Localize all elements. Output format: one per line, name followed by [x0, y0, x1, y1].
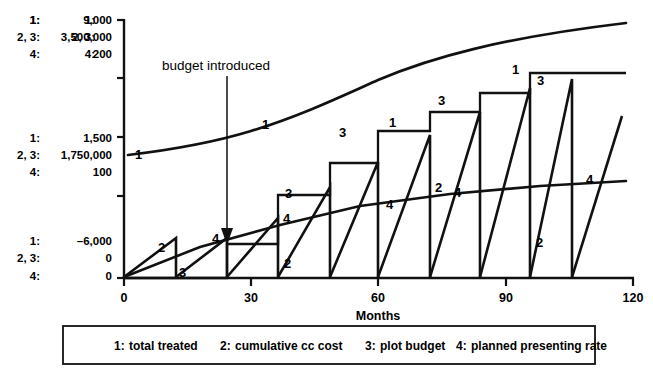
y-bot-val-1: 0 — [106, 252, 112, 264]
y-scale-group-middle: 1: 2, 3: 4: 1,500 1,750,000 100 — [17, 132, 112, 178]
y-bot-val-2: 0 — [106, 270, 112, 282]
series-3-label-d: 3 — [438, 93, 445, 108]
series-3-label-b: 3 — [285, 186, 292, 201]
x-tick-label-2: 60 — [371, 291, 385, 305]
series-2-tooth-5 — [330, 162, 378, 277]
legend-label-2: cumulative cc cost — [235, 339, 342, 353]
legend: 1: total treated 2: cumulative cc cost 3… — [63, 326, 607, 364]
y-bot-key-2: 4: — [30, 270, 40, 282]
x-tick-label-4: 120 — [623, 291, 644, 305]
y-top-key-2: 4: — [30, 48, 40, 60]
series-2-tooth-10 — [572, 116, 622, 277]
series-2-tooth-1 — [124, 238, 176, 277]
y-mid-key-2: 4: — [30, 166, 40, 178]
series-4-label-c: 4 — [386, 197, 394, 212]
series-1-label-c: 1 — [389, 115, 396, 130]
series-4-path — [124, 181, 626, 277]
y-bot-val-0: –6,000 — [77, 235, 112, 247]
series-2-label-a: 2 — [158, 240, 165, 255]
y-top-key-1: 2, 3: — [17, 31, 40, 43]
y-mid-val-2: 100 — [93, 166, 112, 178]
chart-svg: 1: 2, 3: 4: 1: 1: 2, 3: 4: 9,000 3,500,0… — [0, 0, 653, 373]
x-axis-title: Months — [356, 309, 400, 323]
x-tick-label-3: 90 — [499, 291, 513, 305]
series-2-label-c: 2 — [435, 180, 442, 195]
series-4-label-b: 4 — [283, 211, 291, 226]
chart-figure: 1: 2, 3: 4: 1: 1: 2, 3: 4: 9,000 3,500,0… — [0, 0, 653, 373]
legend-label-4: planned presenting rate — [471, 339, 607, 353]
annotation-text: budget introduced — [162, 58, 270, 73]
y-scale-group-bottom: 1: 2, 3: 4: –6,000 0 0 — [17, 235, 112, 282]
series-4-label-e: 4 — [586, 172, 594, 187]
series-1-label-b: 1 — [262, 117, 269, 132]
series-4-label-d: 4 — [454, 185, 462, 200]
series-1-label-a: 1 — [135, 147, 142, 162]
y-mid-key-0: 1: — [30, 132, 40, 144]
y-scale-group-top-values: 1: 2, 3: 4: 9,000 3,500,000 200 — [17, 14, 112, 60]
y-top-val-0: 9,000 — [83, 14, 112, 26]
series-3-label-a: 3 — [179, 265, 186, 280]
annotation-budget-introduced: budget introduced — [162, 58, 270, 245]
y-top-val-1: 3,500,000 — [61, 31, 112, 43]
legend-label-3: plot budget — [380, 339, 445, 353]
y-top-key-0: 1: — [30, 14, 40, 26]
y-top-val-2: 200 — [93, 48, 112, 60]
legend-label-1: total treated — [129, 339, 198, 353]
legend-key-2: 2: — [220, 339, 231, 353]
y-mid-val-0: 1,500 — [83, 132, 112, 144]
x-tick-label-1: 30 — [244, 291, 258, 305]
y-mid-key-1: 2, 3: — [17, 149, 40, 161]
series-2-label-b: 2 — [284, 256, 291, 271]
series-3-label-c: 3 — [339, 125, 346, 140]
legend-key-4: 4: — [456, 339, 467, 353]
legend-key-3: 3: — [365, 339, 376, 353]
x-tick-label-0: 0 — [121, 291, 128, 305]
series-1-label-d: 1 — [512, 62, 519, 77]
series-2-tooth-8 — [480, 88, 530, 277]
x-tick-labels: 0 30 60 90 120 — [121, 291, 644, 305]
y-bot-key-1: 2, 3: — [17, 252, 40, 264]
series-4-presenting-rate — [124, 181, 626, 277]
series-2-label-d: 2 — [536, 235, 543, 250]
series-3-label-e: 3 — [537, 73, 544, 88]
series-inline-labels: 1 1 1 1 2 2 2 2 3 3 3 3 3 4 4 4 4 4 — [135, 62, 594, 280]
legend-key-1: 1: — [114, 339, 125, 353]
y-mid-val-1: 1,750,000 — [61, 149, 112, 161]
series-4-label-a: 4 — [212, 231, 220, 246]
y-bot-key-0: 1: — [30, 235, 40, 247]
